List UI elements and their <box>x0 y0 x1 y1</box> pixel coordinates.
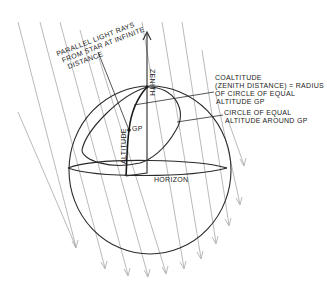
altitude-label: ALTITUDE <box>120 128 127 164</box>
horizon-label: HORIZON <box>154 176 188 183</box>
coaltitude-label-line4: ALTITUDE GP <box>216 98 265 105</box>
circle-label-line2: ALTITUDE AROUND GP <box>225 117 308 124</box>
gp-point <box>127 128 131 132</box>
rays-label: PARALLEL LIGHT RAYS FROM STAR AT INFINIT… <box>55 18 148 72</box>
zenith-label: ZENITH <box>149 69 156 96</box>
circle-label-line1: CIRCLE OF EQUAL <box>224 109 292 117</box>
coaltitude-label-line2: (ZENITH DISTANCE) = RADIUS <box>215 82 324 90</box>
coaltitude-label-line3: OF CIRCLE OF EQUAL <box>215 90 295 98</box>
sphere-outline <box>69 86 231 254</box>
parallel-light-rays <box>18 22 246 277</box>
coaltitude-label-line1: COALTITUDE <box>215 74 262 81</box>
gp-label: GP <box>132 125 143 132</box>
zenith-axis <box>143 32 151 170</box>
celestial-sphere-diagram: PARALLEL LIGHT RAYS FROM STAR AT INFINIT… <box>0 0 327 290</box>
zenith-point <box>146 86 149 89</box>
ray-to-gp <box>98 52 129 130</box>
coaltitude-label: COALTITUDE (ZENITH DISTANCE) = RADIUS OF… <box>215 74 324 105</box>
circle-label: CIRCLE OF EQUAL ALTITUDE AROUND GP <box>224 109 308 124</box>
